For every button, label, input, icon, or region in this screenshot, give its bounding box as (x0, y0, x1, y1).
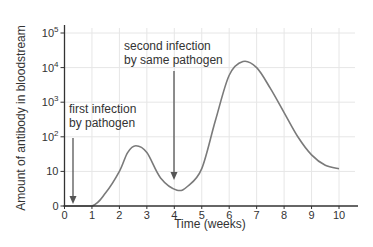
annotation-text: by pathogen (69, 116, 135, 130)
y-tick-label: 102 (42, 129, 59, 143)
x-tick-label: 3 (144, 209, 150, 221)
antibody-chart: 012345678910 010102103104105 Time (weeks… (0, 0, 373, 247)
y-tick-label: 10 (46, 165, 58, 177)
x-tick-label: 1 (89, 209, 95, 221)
arrow-head-icon (171, 172, 178, 180)
annotation-text: second infection (124, 39, 211, 53)
y-tick-label: 103 (42, 94, 59, 108)
arrow-head-icon (70, 196, 77, 204)
x-tick-label: 2 (116, 209, 122, 221)
x-axis-label: Time (weeks) (174, 217, 246, 231)
y-axis-label: Amount of antibody in bloodstream (14, 25, 28, 210)
y-tick-label: 105 (42, 25, 59, 39)
x-tick-label: 9 (308, 209, 314, 221)
y-tick-label: 0 (52, 200, 58, 212)
annotation-text: first infection (69, 102, 136, 116)
x-tick-label: 0 (61, 209, 67, 221)
y-tick-label: 104 (42, 60, 59, 74)
annotation-text: by same pathogen (124, 53, 223, 67)
x-tick-label: 8 (281, 209, 287, 221)
x-tick-label: 7 (254, 209, 260, 221)
y-axis-ticks: 010102103104105 (42, 25, 65, 212)
x-tick-label: 10 (333, 209, 345, 221)
